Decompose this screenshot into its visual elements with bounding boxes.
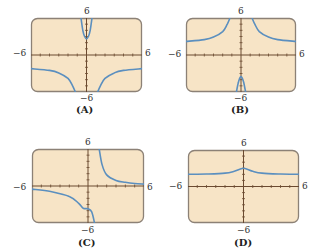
graph-a-y-top-label: 6 bbox=[84, 7, 90, 16]
graph-a-caption: (A) bbox=[76, 105, 93, 115]
graph-d-plot bbox=[188, 150, 299, 223]
graph-c-x-left-label: −6 bbox=[13, 183, 26, 192]
graph-b-caption: (B) bbox=[231, 105, 249, 115]
graph-c-plot bbox=[32, 149, 144, 223]
graph-b-y-bottom-label: −6 bbox=[234, 94, 247, 103]
graph-d-x-left-label: −6 bbox=[169, 182, 182, 191]
graph-b-y-top-label: 6 bbox=[238, 7, 244, 16]
graph-d-y-top-label: 6 bbox=[241, 139, 247, 148]
graph-b-plot bbox=[186, 18, 296, 92]
graph-a-x-right-label: 6 bbox=[145, 49, 151, 58]
graph-panel-a bbox=[31, 18, 142, 92]
graph-a-plot bbox=[31, 18, 142, 92]
graph-panel-b bbox=[186, 18, 296, 92]
graph-b-x-right-label: 6 bbox=[299, 50, 305, 59]
graph-c-x-right-label: 6 bbox=[147, 183, 153, 192]
graph-d-caption: (D) bbox=[234, 238, 252, 248]
graph-panel-d bbox=[188, 150, 299, 223]
graph-panel-c bbox=[32, 149, 144, 223]
graph-d-y-bottom-label: −6 bbox=[237, 226, 250, 235]
graph-c-caption: (C) bbox=[78, 238, 95, 248]
graph-a-x-left-label: −6 bbox=[13, 49, 26, 58]
graph-c-y-bottom-label: −6 bbox=[81, 226, 94, 235]
graph-c-y-top-label: 6 bbox=[85, 138, 91, 147]
graph-d-x-right-label: 6 bbox=[302, 182, 308, 191]
graph-a-y-bottom-label: −6 bbox=[80, 94, 93, 103]
graph-b-x-left-label: −6 bbox=[168, 50, 181, 59]
